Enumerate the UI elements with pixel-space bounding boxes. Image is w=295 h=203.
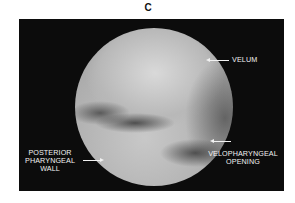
velopharyngeal-opening-label: VELOPHARYNGEAL OPENING [202, 150, 284, 166]
velum-arrow-icon [209, 60, 229, 61]
endoscopic-image-frame: VELUM VELOPHARYNGEAL OPENING POSTERIOR P… [19, 19, 284, 191]
velum-label: VELUM [232, 56, 257, 64]
velopharyngeal-label-line2: OPENING [202, 158, 284, 166]
posterior-label-line3: WALL [20, 165, 80, 173]
velopharyngeal-opening-arrow-icon [213, 141, 231, 142]
posterior-wall-arrow-icon [83, 160, 101, 161]
panel-label: C [142, 2, 154, 13]
posterior-pharyngeal-wall-label: POSTERIOR PHARYNGEAL WALL [20, 149, 80, 173]
